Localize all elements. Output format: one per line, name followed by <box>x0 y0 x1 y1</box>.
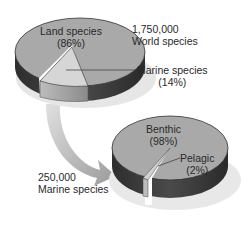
world-caption-text: World species <box>132 35 198 47</box>
world-total-text: 1,750,000 <box>132 23 198 35</box>
marine-caption-text: Marine species <box>38 183 109 195</box>
marine-species-label: Marine species (14%) <box>137 64 208 88</box>
land-pct-text: (86%) <box>40 37 102 49</box>
land-label-text: Land species <box>40 25 102 37</box>
land-species-label: Land species (86%) <box>40 25 102 49</box>
benthic-label: Benthic (98%) <box>146 123 181 147</box>
pelagic-label: Pelagic (2%) <box>180 152 214 176</box>
benthic-label-text: Benthic <box>146 123 181 135</box>
marine-label-text: Marine species <box>137 64 208 76</box>
world-total-label: 1,750,000 World species <box>132 23 198 47</box>
marine-total-label: 250,000 Marine species <box>38 171 109 195</box>
marine-total-text: 250,000 <box>38 171 109 183</box>
benthic-pct-text: (98%) <box>146 135 181 147</box>
pelagic-label-text: Pelagic <box>180 152 214 164</box>
pelagic-pct-text: (2%) <box>180 164 214 176</box>
marine-pct-text: (14%) <box>137 76 208 88</box>
